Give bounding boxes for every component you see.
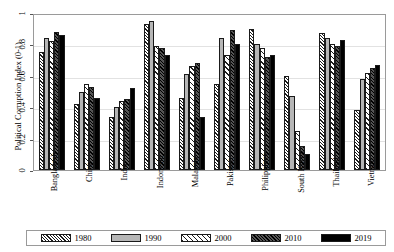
bar-philippines-2019 [270, 55, 275, 170]
x-label-cell: Indonesia [139, 172, 174, 224]
bar-groups [34, 15, 385, 170]
legend-item-2019: 2019 [321, 234, 372, 243]
bar-group-vietnam [350, 15, 385, 170]
x-label-cell: Bangladesh [33, 172, 68, 224]
y-axis-tick-labels: 00.20.40.60.81 [14, 14, 30, 171]
legend-item-1980: 1980 [41, 234, 92, 243]
y-tick-mark [30, 108, 33, 109]
legend-label-2010: 2010 [285, 234, 302, 243]
x-axis-label-thailand: Thailand [333, 157, 341, 187]
bar-group-malaysia [174, 15, 209, 170]
legend-swatch-2000 [181, 234, 211, 243]
x-axis-label-philippines: Philippines [262, 153, 270, 190]
x-label-cell: India [104, 172, 139, 224]
bar-group-south-korea [280, 15, 315, 170]
bar-china-2019 [94, 98, 99, 170]
x-label-cell: Thailand [315, 172, 350, 224]
y-tick-label: 0.4 [18, 99, 27, 115]
bar-thailand-2019 [340, 40, 345, 170]
y-tick-label: 1 [18, 5, 27, 21]
bar-group-pakistan [209, 15, 244, 170]
legend-item-2000: 2000 [181, 234, 232, 243]
x-label-cell: Pakistan [209, 172, 244, 224]
x-axis-label-vietnam: Vietnam [368, 158, 376, 186]
legend-swatch-1990 [111, 234, 141, 243]
legend-label-2019: 2019 [355, 234, 372, 243]
bar-malaysia-2019 [200, 117, 205, 170]
legend-swatch-1980 [41, 234, 71, 243]
chart-legend: 19801990200020102019 [26, 230, 386, 246]
bar-group-bangladesh [34, 15, 69, 170]
bar-bangladesh-2019 [59, 35, 64, 170]
x-label-cell: China [68, 172, 103, 224]
x-axis-label-pakistan: Pakistan [227, 158, 235, 186]
y-tick-label: 0.2 [18, 131, 27, 147]
legend-label-1980: 1980 [75, 234, 92, 243]
legend-label-2000: 2000 [215, 234, 232, 243]
y-tick-label: 0.6 [18, 68, 27, 84]
x-label-cell: South Korea [280, 172, 315, 224]
bar-india-2019 [130, 88, 135, 170]
bar-group-philippines [245, 15, 280, 170]
x-axis-label-south-korea: South Korea [298, 151, 306, 193]
x-label-cell: Philippines [245, 172, 280, 224]
x-axis-label-china: China [86, 162, 94, 182]
y-tick-mark [30, 45, 33, 46]
y-tick-mark [30, 140, 33, 141]
x-axis-category-labels: BangladeshChinaIndiaIndonesiaMalaysiaPak… [33, 172, 386, 224]
legend-swatch-2019 [321, 234, 351, 243]
x-label-cell: Vietnam [351, 172, 386, 224]
bar-chart: Political Corruption Index (0-1) 00.20.4… [0, 0, 394, 252]
y-tick-mark [30, 171, 33, 172]
bar-group-india [104, 15, 139, 170]
x-axis-label-india: India [121, 163, 129, 180]
x-axis-label-indonesia: Indonesia [157, 156, 165, 188]
x-axis-label-malaysia: Malaysia [192, 157, 200, 187]
bar-vietnam-2019 [375, 65, 380, 170]
legend-swatch-2010 [251, 234, 281, 243]
y-tick-mark [30, 77, 33, 78]
y-tick-label: 0.8 [18, 37, 27, 53]
legend-item-2010: 2010 [251, 234, 302, 243]
bar-group-china [69, 15, 104, 170]
bar-pakistan-2019 [235, 44, 240, 170]
legend-label-1990: 1990 [145, 234, 162, 243]
y-tick-mark [30, 14, 33, 15]
y-tick-label: 0 [18, 162, 27, 178]
x-label-cell: Malaysia [174, 172, 209, 224]
bar-group-thailand [315, 15, 350, 170]
plot-area [33, 14, 386, 171]
legend-item-1990: 1990 [111, 234, 162, 243]
x-axis-label-bangladesh: Bangladesh [51, 153, 59, 192]
bar-group-indonesia [139, 15, 174, 170]
bar-indonesia-2019 [165, 55, 170, 170]
